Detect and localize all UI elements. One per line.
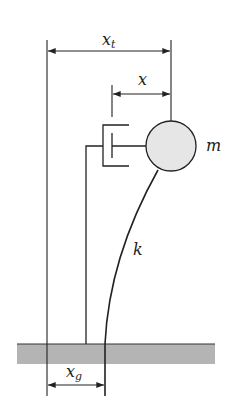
tmd-diagram: xt x m k xg (0, 0, 239, 419)
relative-displacement-dimension: x (113, 70, 170, 94)
stiffness-label: k (133, 240, 143, 259)
total-displacement-dimension: xt (48, 30, 170, 51)
relative-displacement-label: x (138, 70, 147, 89)
ground-displacement-label: xg (66, 362, 82, 383)
ground-displacement-dimension: xg (48, 362, 104, 385)
mass-label: m (206, 136, 221, 155)
mass (146, 121, 196, 171)
damper (86, 125, 146, 344)
total-displacement-label: xt (102, 30, 116, 51)
